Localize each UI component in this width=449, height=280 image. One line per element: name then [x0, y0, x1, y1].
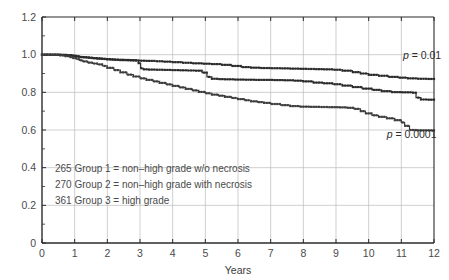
censor-marker	[360, 110, 362, 112]
censor-marker	[148, 79, 150, 81]
censor-marker	[156, 69, 158, 71]
x-tick-label: 8	[300, 247, 306, 259]
censor-marker	[287, 104, 289, 106]
censor-marker	[383, 90, 385, 92]
censor-marker	[138, 62, 140, 64]
censor-marker	[297, 105, 299, 107]
censor-marker	[430, 78, 432, 80]
censor-marker	[360, 72, 362, 74]
censor-marker	[190, 88, 192, 90]
censor-marker	[339, 69, 341, 71]
censor-marker	[206, 71, 208, 73]
censor-marker	[294, 68, 296, 70]
censor-marker	[420, 98, 422, 100]
censor-marker	[83, 60, 85, 62]
censor-marker	[318, 68, 320, 70]
legend-entry-1: 265 Group 1 = non–high grade w/o necrosi…	[55, 163, 250, 174]
censor-marker	[294, 80, 296, 82]
censor-marker	[287, 67, 289, 69]
censor-marker	[117, 69, 119, 71]
censor-marker	[326, 68, 328, 70]
censor-marker	[226, 96, 228, 98]
censor-marker	[344, 106, 346, 108]
censor-marker	[169, 61, 171, 63]
censor-marker	[46, 54, 48, 56]
censor-marker	[64, 55, 66, 57]
censor-marker	[232, 97, 234, 99]
censor-marker	[433, 78, 435, 80]
censor-marker	[362, 87, 364, 89]
x-tick-label: 3	[137, 247, 143, 259]
x-tick-label: 4	[170, 247, 176, 259]
censor-marker	[216, 93, 218, 95]
censor-marker	[41, 54, 43, 56]
censor-marker	[310, 80, 312, 82]
censor-marker	[174, 85, 176, 87]
censor-marker	[260, 79, 262, 81]
censor-marker	[336, 83, 338, 85]
censor-marker	[208, 76, 210, 78]
censor-marker	[96, 62, 98, 64]
censor-marker	[151, 60, 153, 62]
censor-marker	[190, 69, 192, 71]
censor-marker	[334, 83, 336, 85]
censor-marker	[161, 69, 163, 71]
censor-marker	[166, 69, 168, 71]
censor-marker	[187, 69, 189, 71]
censor-marker	[177, 61, 179, 63]
censor-marker	[177, 85, 179, 87]
censor-marker	[245, 99, 247, 101]
y-tick-labels: 00.20.40.60.81.01.2	[21, 11, 36, 249]
censor-marker	[352, 71, 354, 73]
censor-marker	[341, 106, 343, 108]
censor-marker	[234, 97, 236, 99]
censor-marker	[211, 63, 213, 65]
censor-marker	[125, 71, 127, 73]
censor-marker	[365, 72, 367, 74]
chart-canvas: 0123456789101112 00.20.40.60.81.01.2 p =…	[0, 0, 449, 280]
censor-marker	[326, 82, 328, 84]
censor-marker	[106, 58, 108, 60]
censor-marker	[302, 80, 304, 82]
censor-marker	[331, 68, 333, 70]
censor-marker	[263, 79, 265, 81]
censor-marker	[70, 56, 72, 58]
censor-marker	[305, 68, 307, 70]
censor-marker	[192, 62, 194, 64]
p-value-group3: p = 0.0001	[386, 128, 437, 140]
censor-marker	[62, 54, 64, 56]
censor-marker	[185, 62, 187, 64]
censor-marker	[273, 79, 275, 81]
censor-marker	[360, 86, 362, 88]
censor-marker	[375, 89, 377, 91]
censor-marker	[240, 98, 242, 100]
censor-marker	[114, 69, 116, 71]
censor-marker	[138, 75, 140, 77]
censor-marker	[140, 67, 142, 69]
censor-marker	[72, 57, 74, 59]
censor-marker	[310, 68, 312, 70]
censor-marker	[200, 62, 202, 64]
censor-marker	[383, 75, 385, 77]
censor-marker	[91, 57, 93, 59]
censor-marker	[85, 60, 87, 62]
censor-marker	[271, 67, 273, 69]
censor-marker	[130, 59, 132, 61]
censor-marker	[428, 99, 430, 101]
censor-marker	[187, 62, 189, 64]
censor-marker	[281, 104, 283, 106]
censor-marker	[224, 78, 226, 80]
censor-marker	[109, 58, 111, 60]
censor-marker	[135, 59, 137, 61]
censor-marker	[347, 70, 349, 72]
x-tick-labels: 0123456789101112	[39, 247, 440, 259]
censor-marker	[143, 60, 145, 62]
censor-marker	[428, 78, 430, 80]
censor-marker	[339, 106, 341, 108]
censor-marker	[409, 91, 411, 93]
censor-marker	[177, 69, 179, 71]
x-tick-label: 2	[104, 247, 110, 259]
censor-marker	[57, 54, 59, 56]
censor-marker	[307, 80, 309, 82]
censor-marker	[192, 89, 194, 91]
